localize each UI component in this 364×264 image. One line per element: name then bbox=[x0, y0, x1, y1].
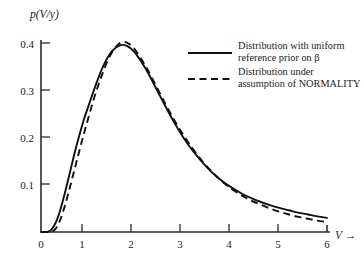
x-tick-label-2: 2 bbox=[122, 238, 140, 250]
legend-label-uniform-prior: Distribution with uniform reference prio… bbox=[238, 40, 364, 63]
legend-item-uniform-prior: Distribution with uniform reference prio… bbox=[186, 41, 364, 67]
x-tick-label-3: 3 bbox=[171, 238, 189, 250]
legend-item-normality: Distribution under assumption of NORMALI… bbox=[186, 67, 364, 93]
legend-label-uniform-prior-line1: Distribution with uniform bbox=[238, 40, 364, 52]
y-tick-label-1: 0.1 bbox=[8, 179, 34, 191]
legend-label-normality-line1: Distribution under bbox=[238, 66, 364, 78]
x-tick-label-4: 4 bbox=[220, 238, 238, 250]
x-tick-label-5: 5 bbox=[269, 238, 287, 250]
x-tick-label-6: 6 bbox=[318, 238, 336, 250]
legend-label-normality-line2: assumption of NORMALITY bbox=[238, 78, 364, 90]
x-tick-marks bbox=[82, 224, 278, 232]
figure-container: p(V/y) V → 0.4 0.3 0.2 0.1 0 1 2 3 4 5 6… bbox=[0, 0, 364, 264]
y-tick-label-4: 0.4 bbox=[8, 38, 34, 50]
y-tick-label-2: 0.2 bbox=[8, 132, 34, 144]
x-tick-label-1: 1 bbox=[73, 238, 91, 250]
legend-label-normality: Distribution under assumption of NORMALI… bbox=[238, 66, 364, 89]
y-tick-label-3: 0.3 bbox=[8, 85, 34, 97]
y-axis-title: p(V/y) bbox=[30, 8, 59, 20]
y-tick-marks bbox=[41, 43, 50, 184]
x-tick-label-0: 0 bbox=[32, 238, 50, 250]
legend: Distribution with uniform reference prio… bbox=[186, 41, 364, 93]
legend-label-uniform-prior-line2: reference prior on β bbox=[238, 52, 364, 64]
x-axis-title: V → bbox=[335, 229, 356, 241]
